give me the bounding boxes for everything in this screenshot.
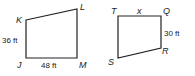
vertex-label-l: L — [80, 2, 85, 12]
side-tq-label: x — [136, 6, 142, 16]
figure-jklm: K L J M 36 ft 48 ft — [2, 2, 87, 70]
side-jk-measure: 36 ft — [2, 36, 18, 45]
quadrilateral-jklm — [26, 9, 77, 58]
vertex-label-r: R — [162, 46, 169, 56]
quadrilateral-tqrs — [118, 16, 161, 58]
vertex-label-m: M — [79, 60, 87, 70]
vertex-label-s: S — [108, 57, 114, 67]
vertex-label-j: J — [16, 60, 22, 70]
side-jm-measure: 48 ft — [41, 61, 57, 70]
similar-quadrilaterals-diagram: K L J M 36 ft 48 ft T x Q 30 ft R S — [0, 0, 195, 76]
vertex-label-t: T — [111, 6, 118, 16]
figure-tqrs: T x Q 30 ft R S — [108, 6, 180, 67]
vertex-label-k: K — [16, 15, 23, 25]
side-qr-measure: 30 ft — [164, 29, 180, 38]
vertex-label-q: Q — [163, 6, 170, 16]
